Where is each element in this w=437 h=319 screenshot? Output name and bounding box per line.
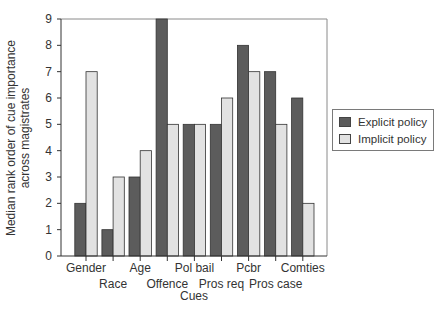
bar-implicit-comties (303, 203, 314, 256)
x-tick-label: Gender (66, 261, 106, 275)
y-axis-label-line-1: Median rank order of cue importance (4, 40, 18, 236)
y-tick-label: 7 (45, 65, 52, 79)
y-tick-label: 8 (45, 38, 52, 52)
legend-item-explicit: Explicit policy (339, 115, 427, 129)
bar-chart: GenderRaceAgeOffencePol bailPros reqPcbr… (0, 0, 437, 319)
bar-implicit-pcbr (249, 72, 260, 256)
legend-item-implicit: Implicit policy (339, 132, 426, 146)
x-tick-label: Age (130, 261, 152, 275)
y-tick-label: 4 (45, 144, 52, 158)
x-tick-label: Race (99, 277, 127, 291)
bar-explicit-pcbr (237, 45, 248, 256)
y-tick-label: 0 (45, 249, 52, 263)
bar-explicit-comties (292, 98, 303, 256)
x-axis-label-text: Cues (180, 289, 208, 303)
x-tick-label: Pcbr (236, 261, 261, 275)
y-axis-label-line-2: across magistrates (18, 40, 32, 236)
x-tick-label: Pol bail (175, 261, 214, 275)
bar-implicit-pros-case (276, 124, 287, 256)
bar-implicit-pros-req (222, 98, 233, 256)
x-tick-label: Pros case (249, 277, 303, 291)
bar-implicit-offence (167, 124, 178, 256)
bar-implicit-race (113, 177, 124, 256)
legend-label-implicit: Implicit policy (358, 133, 426, 145)
bar-explicit-pros-case (265, 72, 276, 256)
bar-explicit-offence (156, 19, 167, 256)
y-tick-label: 1 (45, 223, 52, 237)
y-tick-label: 6 (45, 91, 52, 105)
x-tick-label: Comties (281, 261, 325, 275)
legend-swatch-implicit-icon (339, 134, 351, 144)
legend: Explicit policy Implicit policy (332, 109, 434, 151)
y-tick-label: 5 (45, 117, 52, 131)
bar-explicit-gender (75, 203, 86, 256)
y-tick-label: 2 (45, 196, 52, 210)
bar-explicit-pol-bail (183, 124, 194, 256)
bar-implicit-gender (86, 72, 97, 256)
bar-explicit-race (102, 230, 113, 256)
bar-implicit-pol-bail (194, 124, 205, 256)
bar-explicit-age (129, 177, 140, 256)
legend-label-explicit: Explicit policy (358, 116, 427, 128)
y-tick-label: 3 (45, 170, 52, 184)
y-tick-label: 9 (45, 12, 52, 26)
legend-swatch-explicit-icon (339, 117, 351, 127)
bar-explicit-pros-req (210, 124, 221, 256)
bar-implicit-age (140, 151, 151, 256)
